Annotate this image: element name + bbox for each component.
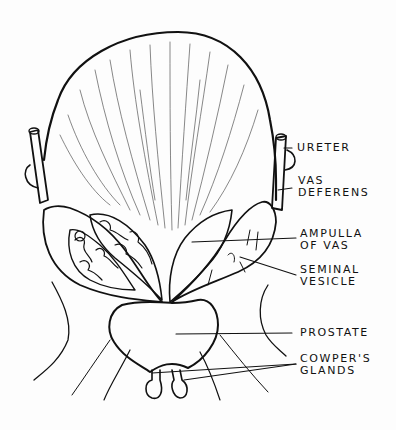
left-pelvic-curve	[34, 282, 69, 380]
bladder-striations	[60, 42, 258, 230]
label-prostate: PROSTATE	[300, 327, 369, 339]
urethra-left	[104, 350, 130, 400]
label-cowpers-glands: COWPER'S GLANDS	[300, 353, 371, 377]
right-vesicle-folds	[208, 230, 258, 285]
cowpers-gland-left	[146, 370, 162, 398]
label-cowpers-line2: GLANDS	[300, 365, 371, 377]
label-ampulla-line2: OF VAS	[300, 240, 363, 252]
left-ureter	[30, 130, 48, 203]
label-vas-deferens-line2: DEFERENS	[298, 187, 369, 199]
urogenital-line-left	[72, 340, 110, 395]
label-prostate-text: PROSTATE	[300, 327, 369, 339]
leader-ampulla	[192, 238, 296, 242]
right-vas-loop	[285, 150, 295, 170]
label-vas-deferens: VAS DEFERENS	[298, 175, 369, 199]
leader-prostate	[176, 333, 292, 334]
leader-vas-deferens	[278, 188, 292, 190]
anatomy-diagram: URETER VAS DEFERENS AMPULLA OF VAS SEMIN…	[0, 0, 396, 430]
label-seminal-line2: VESICLE	[300, 276, 360, 288]
label-seminal-vesicle: SEMINAL VESICLE	[300, 264, 360, 288]
leader-cowpers-2	[184, 364, 296, 380]
leader-cowpers	[152, 364, 296, 373]
label-ureter-text: URETER	[297, 142, 351, 154]
right-seminal-vesicle	[172, 202, 276, 302]
urogenital-line-right	[220, 335, 268, 392]
prostate-outline	[109, 300, 218, 372]
cowpers-gland-right	[172, 370, 187, 398]
label-ureter: URETER	[297, 142, 351, 154]
label-ampulla-of-vas: AMPULLA OF VAS	[300, 228, 363, 252]
right-pelvic-curve	[260, 285, 286, 356]
